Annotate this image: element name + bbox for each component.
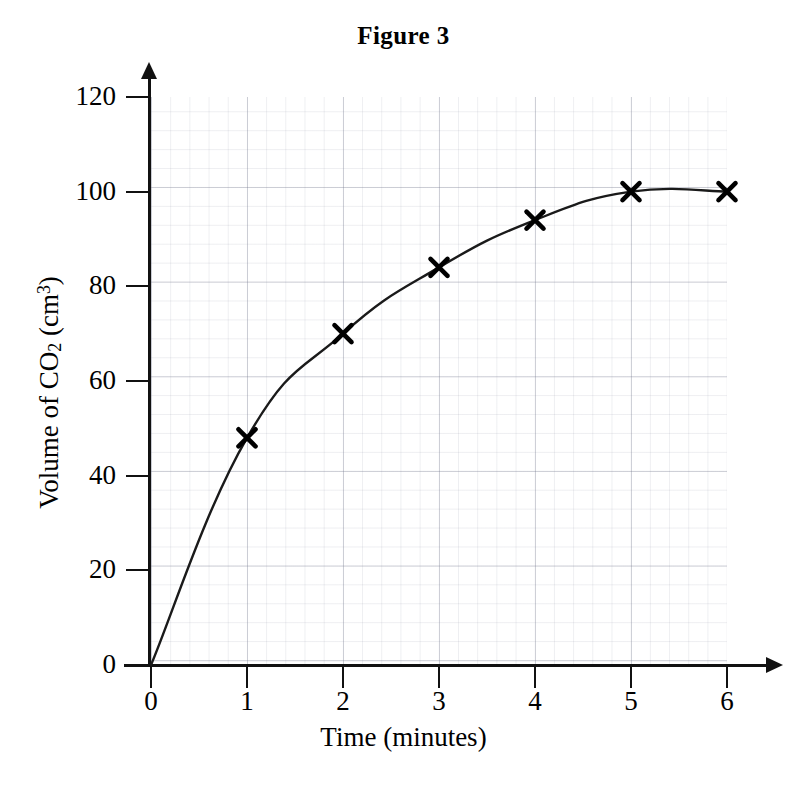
x-axis-tick-label: 3 bbox=[417, 688, 461, 715]
y-axis-title-middle: (cm bbox=[34, 294, 64, 343]
figure-title: Figure 3 bbox=[0, 22, 807, 50]
x-axis-tick bbox=[342, 666, 344, 688]
x-axis-tick-label: 4 bbox=[513, 688, 557, 715]
y-axis-tick bbox=[126, 475, 151, 477]
y-axis-title-suffix: ) bbox=[34, 276, 64, 285]
y-axis-tick bbox=[126, 285, 151, 287]
x-axis-tick-label: 2 bbox=[321, 688, 365, 715]
y-axis-tick bbox=[126, 191, 151, 193]
x-axis-tick bbox=[150, 666, 152, 688]
y-axis-tick bbox=[126, 96, 151, 98]
x-axis-tick-label: 0 bbox=[129, 688, 173, 715]
y-axis-tick bbox=[126, 569, 151, 571]
x-axis-tick-label: 6 bbox=[705, 688, 749, 715]
figure-container: Figure 3 020406080100120 0123456 Time (m… bbox=[0, 0, 807, 793]
x-axis-tick bbox=[726, 666, 728, 688]
y-axis-line bbox=[148, 75, 151, 667]
x-axis-tick bbox=[246, 666, 248, 688]
y-axis-title: Volume of CO2 (cm3) bbox=[34, 104, 67, 680]
x-axis-tick-label: 5 bbox=[609, 688, 653, 715]
x-axis-title: Time (minutes) bbox=[0, 722, 807, 753]
x-axis-line bbox=[124, 664, 772, 667]
x-axis-tick bbox=[630, 666, 632, 688]
y-axis-title-subscript: 2 bbox=[45, 343, 65, 352]
y-axis-title-prefix: Volume of CO bbox=[34, 352, 64, 509]
x-axis-arrowhead-icon bbox=[766, 657, 783, 673]
y-axis-arrowhead-icon bbox=[141, 62, 157, 79]
x-axis-tick bbox=[534, 666, 536, 688]
x-axis-tick-label: 1 bbox=[225, 688, 269, 715]
plot-grid-area bbox=[151, 97, 727, 665]
y-axis-title-superscript: 3 bbox=[34, 285, 54, 294]
x-axis-tick bbox=[438, 666, 440, 688]
y-axis-tick bbox=[126, 380, 151, 382]
y-axis-tick bbox=[126, 664, 151, 666]
